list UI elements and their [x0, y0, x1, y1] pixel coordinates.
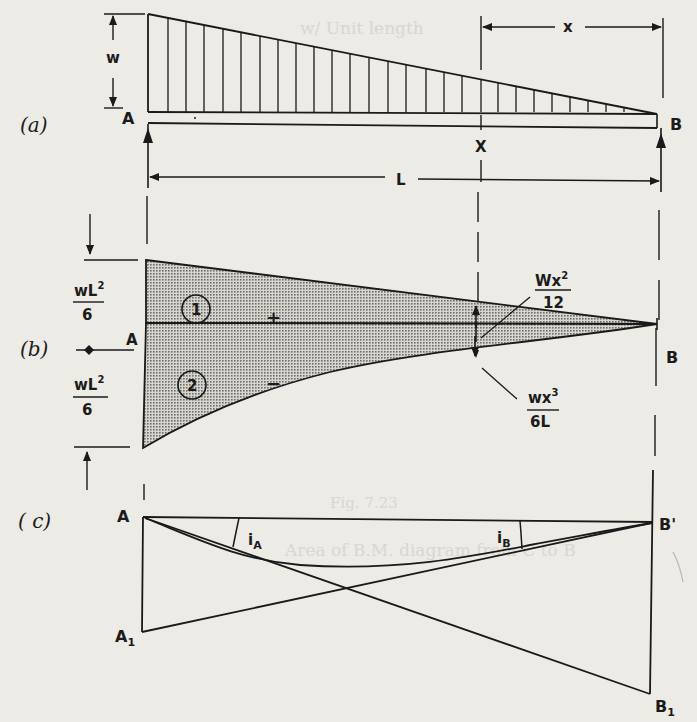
- svg-text:12: 12: [543, 294, 564, 312]
- undeflected-axis: [143, 517, 653, 522]
- region-1-label: 1: [191, 301, 201, 319]
- point-A1-label: A1: [115, 627, 135, 649]
- beam: [148, 112, 657, 128]
- point-B1-label: B1: [655, 697, 675, 719]
- slope-A-label: iA: [248, 531, 262, 552]
- load-intensity-dimension: w: [104, 14, 145, 108]
- part-b-moment-diagram: (b) 1 2 + − wL2 6 wL2 6: [20, 214, 678, 490]
- negative-sign: −: [266, 373, 281, 394]
- point-B-label: B: [670, 115, 682, 134]
- negative-moment-region: [143, 323, 657, 448]
- point-B-prime-label: B': [659, 515, 676, 534]
- point-B-label-b: B: [666, 348, 678, 367]
- part-c-tag: ( c): [18, 509, 51, 533]
- svg-text:wL2: wL2: [74, 374, 104, 394]
- svg-text:6: 6: [82, 401, 92, 419]
- left-moment-dimension: [74, 214, 138, 490]
- distance-x-label: x: [563, 18, 573, 36]
- section-top-value: Wx2 12: [535, 270, 571, 312]
- section-X-label: X: [475, 138, 487, 156]
- positive-sign: +: [266, 307, 281, 328]
- part-a-tag: (a): [20, 113, 48, 137]
- svg-text:Wx2: Wx2: [535, 270, 568, 290]
- svg-text:wL2: wL2: [74, 280, 104, 300]
- span-L-label: L: [396, 171, 406, 189]
- load-intensity-label: w: [106, 49, 120, 67]
- bottom-moment-value: wL2 6: [73, 374, 108, 419]
- point-A-label-b: A: [126, 331, 138, 349]
- ghost-line-3: Area of B.M. diagram from C to B: [284, 540, 576, 560]
- svg-text:wx3: wx3: [528, 387, 559, 407]
- point-A-label-c: A: [117, 507, 130, 526]
- slope-B-label: iB: [497, 529, 511, 550]
- beam-slope-diagram-figure: w/ Unit length Fig. 7.23 Area of B.M. di…: [0, 0, 697, 722]
- slope-A-arc: [233, 518, 239, 547]
- ghost-line-1: w/ Unit length: [300, 18, 424, 38]
- top-moment-value: wL2 6: [73, 280, 104, 324]
- span-L-dimension: L: [150, 171, 659, 189]
- part-a-loaded-beam: (a): [20, 14, 682, 192]
- ghost-line-2: Fig. 7.23: [330, 494, 398, 512]
- figure-canvas: w/ Unit length Fig. 7.23 Area of B.M. di…: [0, 0, 697, 722]
- point-A-label: A: [122, 109, 135, 128]
- part-b-tag: (b): [20, 337, 48, 361]
- section-bottom-value: wx3 6L: [527, 387, 559, 431]
- svg-text:6L: 6L: [530, 413, 550, 431]
- svg-text:6: 6: [82, 306, 92, 324]
- right-vertical-line: [650, 470, 653, 694]
- positive-moment-region: [146, 260, 657, 324]
- region-2-label: 2: [187, 377, 197, 395]
- support-reaction-A-arrow-icon: [143, 124, 153, 188]
- support-reaction-B-arrow-icon: [656, 128, 666, 192]
- left-vertical-line: [142, 517, 143, 632]
